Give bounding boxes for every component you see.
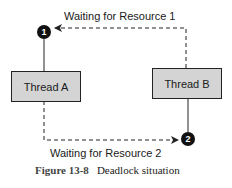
wait-resource-1-label: Waiting for Resource 1 bbox=[64, 10, 175, 22]
thread-a-node: Thread A bbox=[11, 71, 81, 102]
thread-b-node: Thread B bbox=[152, 68, 222, 99]
wait-resource-2-label: Waiting for Resource 2 bbox=[50, 147, 161, 159]
resource-1-marker: 1 bbox=[37, 25, 51, 39]
figure-number: Figure 13-8 bbox=[35, 164, 89, 176]
resource-2-marker: 2 bbox=[181, 132, 195, 146]
figure-caption: Figure 13-8Deadlock situation bbox=[35, 164, 180, 176]
figure-title: Deadlock situation bbox=[97, 164, 180, 176]
